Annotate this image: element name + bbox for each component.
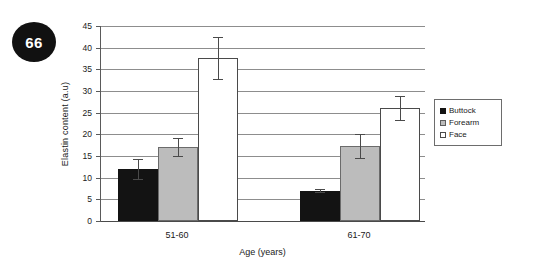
y-axis-tick-label: 45 (83, 21, 92, 31)
bars-layer (101, 26, 425, 221)
error-cap (213, 79, 223, 80)
error-cap (315, 192, 325, 193)
figure-panel: 66 Elastin content (a.u) 051015202530354… (0, 0, 535, 272)
plot-area: 051015202530354045 (100, 26, 425, 221)
bar-buttock-61-70 (300, 191, 340, 221)
error-cap (133, 159, 143, 160)
y-axis-tick-label: 35 (83, 64, 92, 74)
error-cap (395, 96, 405, 97)
legend-swatch-icon (440, 132, 446, 138)
bar-face-51-60 (198, 58, 238, 221)
error-cap (315, 189, 325, 190)
legend-item-buttock[interactable]: Buttock (440, 105, 498, 116)
error-cap (395, 120, 405, 121)
legend-label: Face (449, 129, 467, 140)
gridline (101, 221, 425, 222)
error-bar-buttock-51-60 (138, 159, 139, 178)
legend-swatch-icon (440, 120, 446, 126)
figure-number-label: 66 (25, 34, 43, 51)
chart-legend: ButtockForearmFace (434, 99, 502, 146)
y-axis-tick (96, 221, 101, 222)
y-axis-tick-label: 30 (83, 86, 92, 96)
legend-label: Forearm (449, 117, 479, 128)
legend-label: Buttock (449, 105, 476, 116)
figure-number-badge: 66 (12, 22, 56, 62)
x-axis-category-label: 61-70 (347, 230, 370, 240)
bar-forearm-51-60 (158, 147, 198, 221)
y-axis-tick-label: 40 (83, 43, 92, 53)
bar-face-61-70 (380, 108, 420, 221)
x-axis-category-label: 51-60 (165, 230, 188, 240)
legend-item-face[interactable]: Face (440, 129, 498, 140)
y-axis-tick-label: 5 (87, 194, 92, 204)
error-bar-forearm-51-60 (178, 138, 179, 156)
y-axis-tick-label: 20 (83, 129, 92, 139)
error-cap (173, 156, 183, 157)
error-cap (173, 138, 183, 139)
y-axis-title: Elastin content (a.u) (58, 26, 72, 221)
error-cap (213, 37, 223, 38)
y-axis-tick-label: 15 (83, 151, 92, 161)
error-bar-forearm-61-70 (360, 134, 361, 158)
error-cap (355, 134, 365, 135)
error-bar-face-61-70 (400, 96, 401, 120)
error-cap (355, 158, 365, 159)
legend-item-forearm[interactable]: Forearm (440, 117, 498, 128)
error-bar-face-51-60 (218, 37, 219, 79)
x-axis-title: Age (years) (100, 247, 425, 257)
error-cap (133, 179, 143, 180)
y-axis-tick-label: 10 (83, 173, 92, 183)
legend-swatch-icon (440, 108, 446, 114)
y-axis-tick-label: 0 (87, 216, 92, 226)
y-axis-tick-label: 25 (83, 108, 92, 118)
